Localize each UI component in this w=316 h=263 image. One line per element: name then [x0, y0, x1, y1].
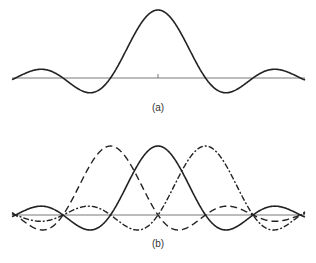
panel-b-label: (b) [152, 238, 164, 249]
panel-b [12, 146, 305, 230]
panel-a [12, 10, 305, 93]
sinc-curve-a [12, 10, 305, 93]
sinc-curve-right-dashdot [12, 146, 305, 230]
sinc-diagram [0, 0, 316, 263]
panel-a-label: (a) [152, 102, 164, 113]
